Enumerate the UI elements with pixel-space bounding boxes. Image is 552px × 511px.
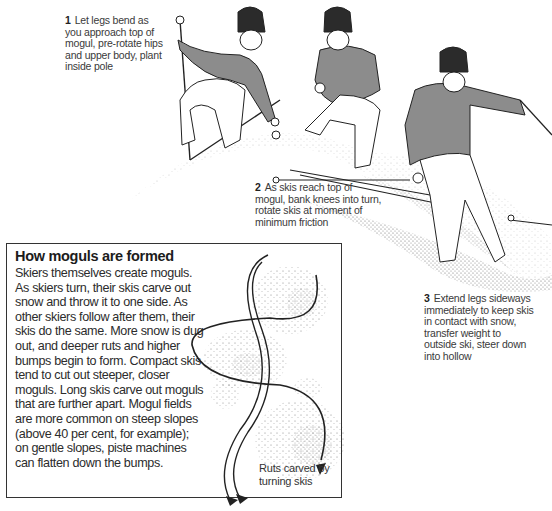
- caption-text: Extend legs sideways immediately to keep…: [424, 292, 534, 362]
- caption-step-2: 2As skis reach top of mogul, bank knees …: [255, 182, 385, 228]
- sidebar-title: How moguls are formed: [15, 248, 174, 264]
- moguls-sidebar-box: How moguls are formed Skiers themselves …: [6, 243, 342, 498]
- caption-text: Let legs bend as you approach top of mog…: [65, 14, 163, 72]
- caption-step-1: 1Let legs bend as you approach top of mo…: [65, 15, 165, 73]
- sidebar-body: Skiers themselves create moguls. As skie…: [15, 266, 205, 470]
- caption-text: As skis reach top of mogul, bank knees i…: [255, 181, 381, 228]
- caption-step-3: 3Extend legs sideways immediately to kee…: [424, 293, 536, 362]
- step-number: 2: [255, 181, 261, 193]
- step-number: 1: [65, 14, 71, 26]
- step-number: 3: [424, 292, 430, 304]
- diagram-label: Ruts carved by turning skis: [259, 462, 349, 487]
